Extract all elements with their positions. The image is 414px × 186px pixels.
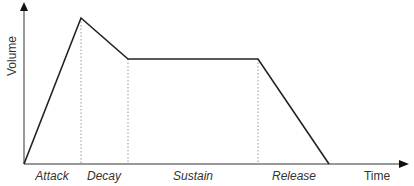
phase-label-release: Release xyxy=(272,169,316,183)
phase-label-sustain: Sustain xyxy=(173,169,213,183)
x-axis-label: Time xyxy=(364,169,391,183)
y-axis-arrow-icon xyxy=(20,2,28,11)
adsr-diagram: Volume Time Attack Decay Sustain Release xyxy=(0,0,414,186)
x-axis-arrow-icon xyxy=(399,160,409,168)
phase-label-attack: Attack xyxy=(34,169,69,183)
phase-label-decay: Decay xyxy=(87,169,122,183)
envelope-line xyxy=(24,18,329,164)
y-axis-label: Volume xyxy=(5,36,19,76)
